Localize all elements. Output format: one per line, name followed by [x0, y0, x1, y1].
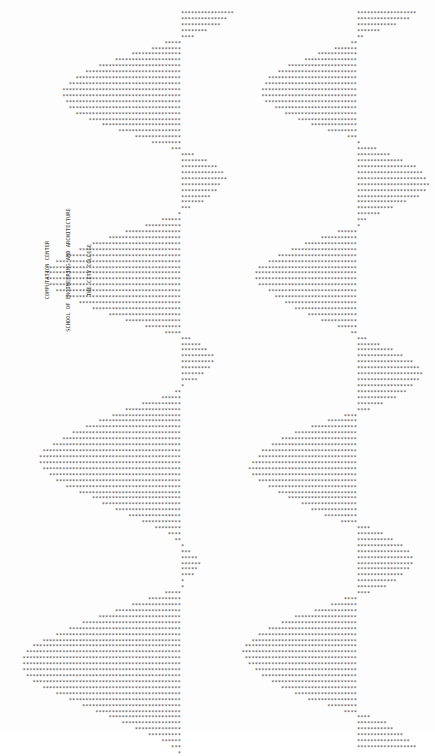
- plot-row: *: [357, 223, 360, 229]
- plot-row: ****: [357, 407, 370, 413]
- plot-row: *: [178, 750, 181, 756]
- plot-row: ***: [171, 146, 181, 152]
- plot-row: ***: [181, 205, 191, 211]
- plot-row: *****: [341, 519, 358, 525]
- plot-row: **: [350, 330, 357, 336]
- plot-row: **: [357, 34, 364, 40]
- plot-row: ******************: [357, 744, 416, 750]
- plot-column-right: [0, 0, 1, 733]
- plot-row: **: [174, 537, 181, 543]
- plot-row: *: [181, 584, 184, 590]
- plot-row: ****: [181, 34, 194, 40]
- plot-row: ****: [344, 709, 357, 715]
- plot-row: ****: [357, 590, 370, 596]
- plot-row: *: [181, 383, 184, 389]
- plot-row: ***: [347, 134, 357, 140]
- plot-row: *****: [165, 330, 182, 336]
